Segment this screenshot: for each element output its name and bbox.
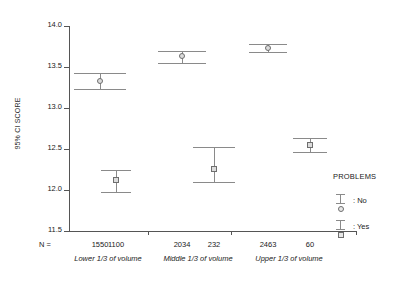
- group-label: Upper 1/3 of volume: [234, 254, 344, 263]
- error-bar-cap-lower: [158, 63, 206, 64]
- y-axis-tick-label-wrap: 11.5: [26, 226, 62, 236]
- y-axis-tick-label: 13.5: [28, 62, 62, 70]
- data-point-marker-no: [179, 53, 185, 59]
- error-bar-cap-lower: [193, 182, 235, 183]
- legend-marker-circle: [338, 206, 344, 212]
- data-point-marker-yes: [113, 177, 119, 183]
- x-axis-tick: [148, 231, 149, 235]
- legend-line: [340, 194, 341, 203]
- y-axis-tick-label-wrap: 14.0: [26, 21, 62, 31]
- y-axis-tick: [64, 190, 69, 191]
- legend-errorbar-icon: [335, 193, 347, 213]
- n-value: 1100: [96, 240, 136, 249]
- legend-marker-square: [338, 232, 344, 238]
- legend-entries: : No: Yes: [333, 193, 397, 245]
- y-axis-tick-label: 12.5: [28, 144, 62, 152]
- error-bar-cap-lower: [74, 89, 126, 90]
- y-axis-line: [69, 26, 70, 232]
- y-axis-tick-label: 14.0: [28, 21, 62, 29]
- n-value: 60: [290, 240, 330, 249]
- y-axis-tick: [64, 67, 69, 68]
- n-value: 232: [194, 240, 234, 249]
- legend-cap-bottom: [336, 229, 345, 230]
- data-point-marker-no: [97, 78, 103, 84]
- y-axis-tick-label: 13.0: [28, 103, 62, 111]
- legend-entry: : Yes: [333, 219, 397, 245]
- error-bar-cap-upper: [293, 138, 327, 139]
- legend-label: : Yes: [353, 222, 369, 231]
- legend-title: PROBLEMS: [333, 172, 397, 181]
- y-axis-tick-label-wrap: 13.5: [26, 62, 62, 72]
- x-axis-line: [69, 231, 356, 232]
- y-axis-tick-label-wrap: 12.5: [26, 144, 62, 154]
- x-axis-tick: [231, 231, 232, 235]
- error-bar-line: [214, 147, 215, 182]
- y-axis-tick: [64, 108, 69, 109]
- error-bar-cap-upper: [74, 73, 126, 74]
- y-axis-tick-label: 12.0: [28, 185, 62, 193]
- legend-line: [340, 220, 341, 229]
- legend-errorbar-icon: [335, 219, 347, 239]
- y-axis-tick: [64, 149, 69, 150]
- error-bar-cap-upper: [101, 170, 131, 171]
- error-bar-cap-lower: [293, 152, 327, 153]
- chart-figure: 95% CI SCORE 14.013.513.012.512.011.5 N …: [0, 0, 398, 285]
- n-row-prefix: N =: [39, 240, 51, 249]
- error-bar-cap-upper: [158, 51, 206, 52]
- n-value: 2463: [248, 240, 288, 249]
- y-axis-tick: [64, 231, 69, 232]
- legend-cap-bottom: [336, 203, 345, 204]
- data-point-marker-no: [265, 45, 271, 51]
- y-axis-tick-label-wrap: 13.0: [26, 103, 62, 113]
- y-axis-title: 95% CI SCORE: [14, 74, 21, 174]
- error-bar-cap-upper: [193, 147, 235, 148]
- legend-label: : No: [353, 196, 367, 205]
- error-bar-cap-lower: [101, 192, 131, 193]
- data-point-marker-yes: [307, 142, 313, 148]
- y-axis-tick: [64, 26, 69, 27]
- error-bar-cap-lower: [249, 52, 287, 53]
- legend: PROBLEMS : No: Yes: [333, 172, 397, 245]
- data-point-marker-yes: [211, 166, 217, 172]
- legend-entry: : No: [333, 193, 397, 219]
- y-axis-tick-label: 11.5: [28, 226, 62, 234]
- y-axis-tick-label-wrap: 12.0: [26, 185, 62, 195]
